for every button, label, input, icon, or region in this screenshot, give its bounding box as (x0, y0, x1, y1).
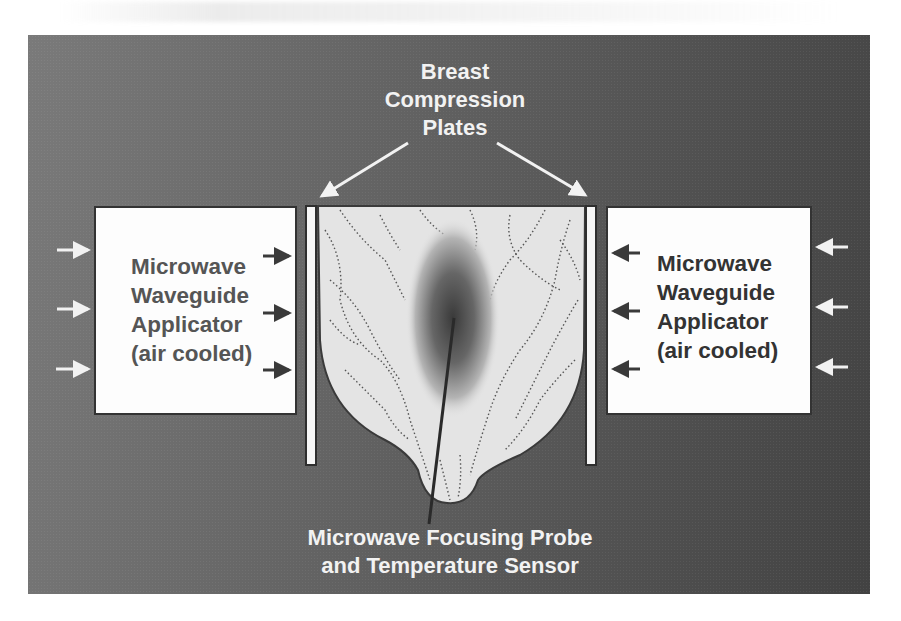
probe-label: Microwave Focusing Probe and Temperature… (250, 524, 650, 580)
compression-plates-label: Breast Compression Plates (355, 58, 555, 142)
compression-plate-right (585, 205, 597, 466)
title-line-1: Breast (355, 58, 555, 86)
applicator-left-line-4: (air cooled) (131, 339, 252, 368)
applicator-left-label: Microwave Waveguide Applicator (air cool… (131, 252, 252, 368)
probe-label-line-2: and Temperature Sensor (250, 552, 650, 580)
applicator-right-line-4: (air cooled) (657, 336, 778, 365)
applicator-right-line-1: Microwave (657, 249, 778, 278)
title-line-3: Plates (355, 114, 555, 142)
applicator-left-line-2: Waveguide (131, 281, 252, 310)
waveguide-applicator-right: Microwave Waveguide Applicator (air cool… (606, 206, 812, 415)
compression-plate-left (305, 205, 317, 466)
title-line-2: Compression (355, 86, 555, 114)
applicator-left-line-1: Microwave (131, 252, 252, 281)
applicator-left-line-3: Applicator (131, 310, 252, 339)
waveguide-applicator-left: Microwave Waveguide Applicator (air cool… (94, 206, 297, 415)
applicator-right-line-2: Waveguide (657, 278, 778, 307)
applicator-right-label: Microwave Waveguide Applicator (air cool… (657, 249, 778, 365)
probe-label-line-1: Microwave Focusing Probe (250, 524, 650, 552)
applicator-right-line-3: Applicator (657, 307, 778, 336)
